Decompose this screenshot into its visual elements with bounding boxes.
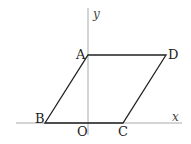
coordinate-diagram: y x A D B O C	[0, 0, 191, 144]
point-c-label: C	[118, 124, 128, 139]
point-b-label: B	[35, 111, 45, 126]
parallelogram-abcd	[45, 55, 166, 123]
x-axis-label: x	[172, 110, 179, 124]
point-a-label: A	[75, 47, 86, 62]
point-d-label: D	[168, 47, 178, 62]
origin-label: O	[77, 124, 88, 139]
y-axis-label: y	[92, 7, 100, 21]
